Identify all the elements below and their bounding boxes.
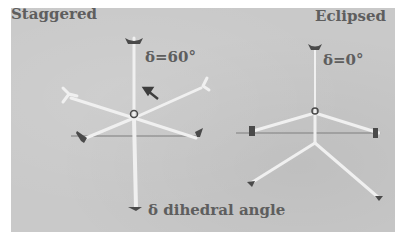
model-drawing <box>11 8 395 232</box>
eclipsed-title: Eclipsed <box>315 9 386 24</box>
dihedral-angle-caption: δ dihedral angle <box>148 203 285 218</box>
eclipsed-model <box>251 48 379 198</box>
staggered-angle-label: δ=60° <box>145 50 196 65</box>
rotation-arrow <box>144 88 158 99</box>
staggered-title: Staggered <box>11 7 97 22</box>
molecular-model-photo <box>11 8 395 232</box>
eclipsed-angle-label: δ=0° <box>323 53 364 68</box>
